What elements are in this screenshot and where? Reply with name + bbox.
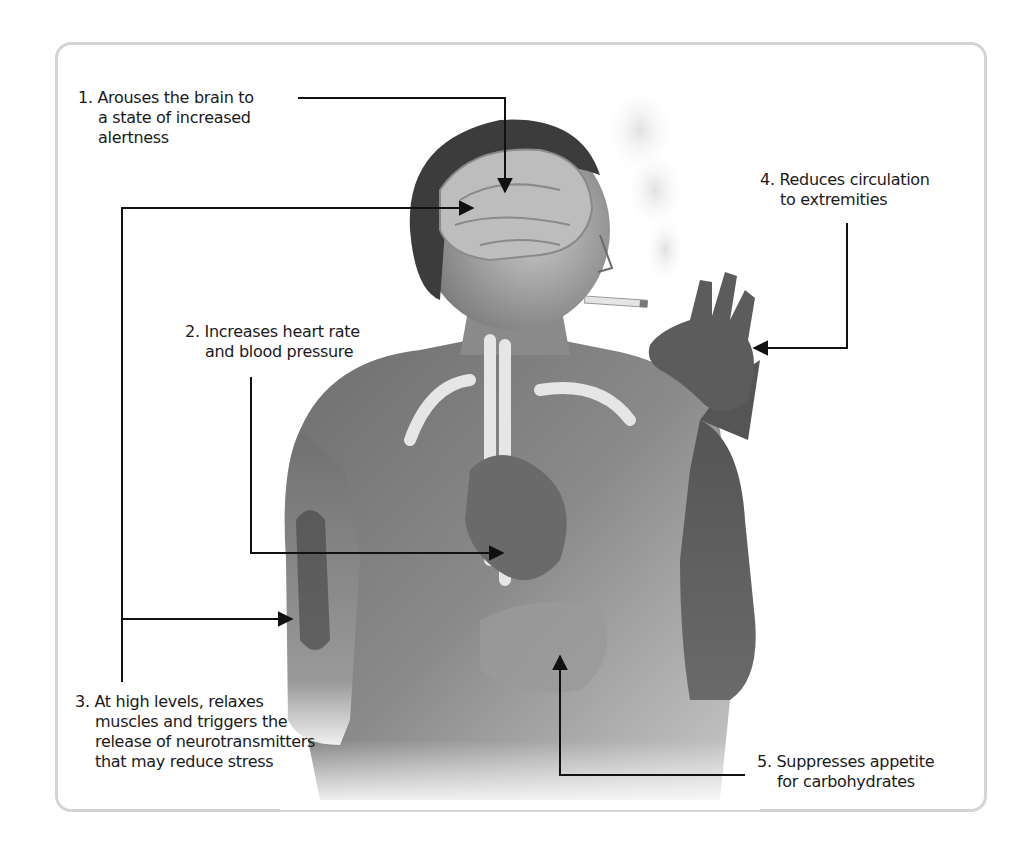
- annotation-1: 1. Arouses the brain to a state of incre…: [78, 88, 254, 148]
- annotation-4: 4. Reduces circulation to extremities: [760, 170, 930, 210]
- annotation-3: 3. At high levels, relaxes muscles and t…: [75, 692, 315, 772]
- annotation-2: 2. Increases heart rate and blood pressu…: [185, 322, 360, 362]
- annotation-5: 5. Suppresses appetite for carbohydrates: [757, 752, 934, 792]
- smoke: [605, 85, 685, 285]
